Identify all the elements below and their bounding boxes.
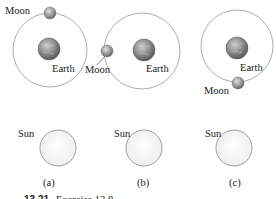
earth-icon [38,38,60,60]
moon-label: Moon [5,5,31,16]
sun-label: Sun [18,128,35,139]
sun-icon [40,130,76,166]
panel-a: Moon Earth Sun (a) [5,5,87,189]
earth-moon-sun-diagram: Moon Earth Sun (a) Moon Earth Sun (b) Mo… [0,0,276,199]
moon-label: Moon [204,85,230,96]
moon-icon [101,45,113,57]
panel-b: Moon Earth Sun (b) [85,13,180,189]
panel-caption: (c) [229,177,241,189]
sun-icon [216,130,252,166]
sun-label: Sun [114,128,131,139]
earth-label: Earth [52,63,75,74]
panel-c: Moon Earth Sun (c) [201,10,273,189]
figure-caption: 13.21 Exercise 13.8 [24,194,113,199]
moon-icon [232,77,244,89]
earth-icon [133,39,155,61]
moon-icon [44,7,56,19]
earth-label: Earth [146,63,169,74]
sun-icon [126,130,162,166]
panel-caption: (a) [43,177,55,189]
figure-caption-text: Exercise 13.8 [56,194,113,199]
moon-label: Moon [85,64,111,75]
sun-label: Sun [205,128,222,139]
figure-number: 13.21 [24,194,49,199]
earth-icon [226,37,248,59]
panel-caption: (b) [137,177,150,189]
earth-label: Earth [240,62,263,73]
